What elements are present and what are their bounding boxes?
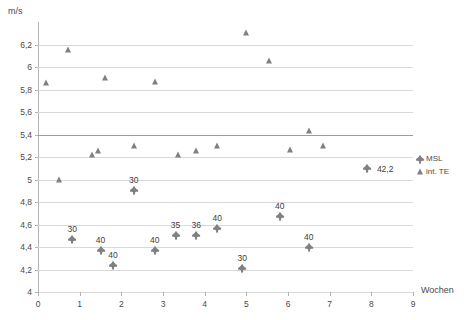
data-point-label: 40 (304, 232, 313, 242)
x-tick-label: 5 (236, 299, 256, 309)
x-tick-label: 4 (195, 299, 215, 309)
legend-label: MSL (426, 154, 442, 163)
plot-area: 44,24,44,64,855,25,45,65,866,2 012345678… (38, 22, 413, 292)
diamond-marker-icon (172, 231, 179, 238)
y-tick-mark (35, 112, 38, 113)
x-tick-label: 7 (320, 299, 340, 309)
x-tick-label: 1 (70, 299, 90, 309)
x-tick-label: 8 (361, 299, 381, 309)
triangle-marker-icon (131, 142, 137, 148)
triangle-marker-icon (243, 30, 249, 36)
triangle-marker-icon (266, 58, 272, 64)
x-tick-mark (80, 292, 81, 296)
y-tick-label: 4,2 (4, 265, 32, 275)
diamond-marker-icon (239, 265, 246, 272)
y-tick-label: 5,2 (4, 152, 32, 162)
data-point-label: 35 (171, 220, 180, 230)
gridline-y (38, 135, 413, 136)
y-tick-mark (35, 270, 38, 271)
gridline-y (38, 247, 413, 248)
legend-item-int-te[interactable]: int. TE (415, 165, 449, 178)
triangle-marker-icon (287, 147, 293, 153)
y-tick-mark (35, 157, 38, 158)
y-tick-mark (35, 247, 38, 248)
data-point-label: 40 (212, 213, 221, 223)
y-tick-mark (35, 67, 38, 68)
diamond-marker-icon (415, 154, 424, 163)
diamond-marker-icon (193, 231, 200, 238)
x-tick-mark (38, 292, 39, 296)
scatter-chart: m/s Wochen 44,24,44,64,855,25,45,65,866,… (0, 0, 474, 320)
triangle-marker-icon (89, 151, 95, 157)
triangle-marker-icon (175, 151, 181, 157)
x-tick-mark (288, 292, 289, 296)
diamond-marker-icon (109, 261, 116, 268)
data-point-label: 36 (192, 220, 201, 230)
triangle-marker-icon (306, 128, 312, 134)
triangle-marker-icon (65, 47, 71, 53)
gridline-y (38, 67, 413, 68)
data-point-label: 42,2 (377, 164, 394, 174)
y-tick-mark (35, 135, 38, 136)
y-tick-label: 6 (4, 62, 32, 72)
gridline-y (38, 292, 413, 293)
y-tick-label: 5 (4, 175, 32, 185)
y-tick-label: 5,8 (4, 85, 32, 95)
y-tick-mark (35, 90, 38, 91)
x-tick-mark (371, 292, 372, 296)
x-tick-label: 6 (278, 299, 298, 309)
diamond-marker-icon (305, 243, 312, 250)
gridline-y (38, 45, 413, 46)
triangle-marker-icon (320, 142, 326, 148)
y-tick-label: 4,6 (4, 220, 32, 230)
data-point-label: 30 (237, 253, 246, 263)
x-tick-mark (163, 292, 164, 296)
y-tick-label: 4,4 (4, 242, 32, 252)
diamond-marker-icon (364, 165, 371, 172)
x-tick-mark (330, 292, 331, 296)
y-axis-title: m/s (8, 6, 23, 16)
y-tick-mark (35, 45, 38, 46)
y-tick-label: 6,2 (4, 40, 32, 50)
legend-marker-glyph (417, 168, 423, 174)
x-tick-label: 3 (153, 299, 173, 309)
data-point-label: 40 (108, 250, 117, 260)
x-tick-label: 0 (28, 299, 48, 309)
triangle-marker-icon (415, 167, 424, 176)
triangle-marker-icon (152, 78, 158, 84)
y-tick-mark (35, 202, 38, 203)
diamond-marker-icon (69, 236, 76, 243)
diamond-marker-icon (97, 247, 104, 254)
gridline-y (38, 90, 413, 91)
diamond-marker-icon (151, 247, 158, 254)
y-tick-label: 4 (4, 287, 32, 297)
data-point-label: 30 (129, 175, 138, 185)
x-tick-mark (413, 292, 414, 296)
diamond-marker-icon (130, 186, 137, 193)
triangle-marker-icon (43, 79, 49, 85)
y-tick-mark (35, 225, 38, 226)
triangle-marker-icon (102, 75, 108, 81)
y-tick-label: 5,6 (4, 107, 32, 117)
y-tick-mark (35, 180, 38, 181)
chart-legend: MSLint. TE (415, 152, 449, 178)
y-tick-label: 5,4 (4, 130, 32, 140)
data-point-label: 40 (96, 235, 105, 245)
x-tick-mark (205, 292, 206, 296)
triangle-marker-icon (56, 176, 62, 182)
diamond-marker-icon (276, 212, 283, 219)
legend-marker-glyph (416, 155, 423, 162)
x-tick-mark (121, 292, 122, 296)
data-point-label: 40 (150, 235, 159, 245)
x-tick-label: 9 (403, 299, 423, 309)
legend-label: int. TE (426, 167, 449, 176)
y-tick-label: 4,8 (4, 197, 32, 207)
gridline-y (38, 202, 413, 203)
gridline-y (38, 225, 413, 226)
legend-item-msl[interactable]: MSL (415, 152, 449, 165)
x-tick-mark (246, 292, 247, 296)
triangle-marker-icon (193, 148, 199, 154)
data-point-label: 30 (67, 224, 76, 234)
triangle-marker-icon (95, 148, 101, 154)
gridline-y (38, 270, 413, 271)
